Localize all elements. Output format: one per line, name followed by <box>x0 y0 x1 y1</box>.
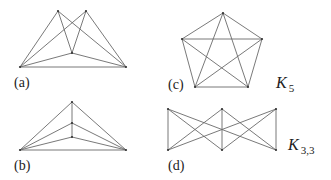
edge <box>72 102 126 150</box>
vertex <box>261 38 263 40</box>
vertex <box>221 149 223 151</box>
edge <box>195 39 262 87</box>
vertex <box>85 10 87 12</box>
graph-b <box>19 101 127 151</box>
vertex <box>275 149 277 151</box>
k33-name: K <box>288 136 299 153</box>
vertex <box>125 149 127 151</box>
vertex <box>222 12 224 14</box>
k5-label: K5 <box>276 74 294 94</box>
vertex <box>71 101 73 103</box>
graph-k5 <box>181 12 263 88</box>
label-a: (a) <box>14 75 30 91</box>
edge <box>248 39 262 87</box>
label-c: (c) <box>168 77 184 93</box>
vertex <box>71 52 73 54</box>
k5-subscript: 5 <box>289 82 295 94</box>
vertex <box>19 149 21 151</box>
vertex <box>275 108 277 110</box>
k5-name: K <box>276 74 287 91</box>
edge <box>182 13 223 39</box>
graph-a <box>19 10 127 68</box>
label-b: (b) <box>14 158 30 174</box>
edge <box>20 123 72 150</box>
vertex <box>19 66 21 68</box>
edge <box>20 102 72 150</box>
vertex <box>167 149 169 151</box>
k33-label: K3,3 <box>288 136 314 156</box>
edge <box>195 13 223 87</box>
vertex <box>221 108 223 110</box>
graph-k33 <box>167 108 277 151</box>
vertex <box>71 122 73 124</box>
vertex <box>194 86 196 88</box>
edge <box>182 39 248 87</box>
vertex <box>125 66 127 68</box>
vertex <box>71 136 73 138</box>
edge <box>20 11 86 67</box>
vertex <box>181 38 183 40</box>
edge <box>223 13 262 39</box>
vertex <box>247 86 249 88</box>
edge <box>72 137 126 150</box>
edge <box>20 137 72 150</box>
label-d: (d) <box>168 158 184 174</box>
vertex <box>167 108 169 110</box>
k33-subscript: 3,3 <box>301 144 315 156</box>
edge <box>72 123 126 150</box>
edge <box>223 13 248 87</box>
vertex <box>57 10 59 12</box>
